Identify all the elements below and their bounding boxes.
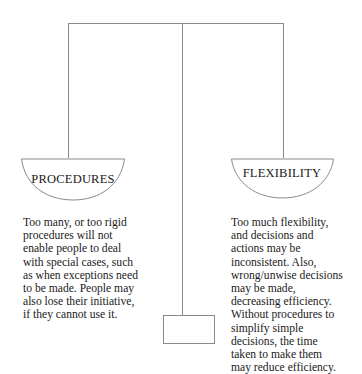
flexibility-label: FLEXIBILITY — [231, 166, 333, 181]
description-line: decreasing efficiency. — [231, 295, 343, 308]
description-line: decisions, the time — [231, 335, 343, 348]
description-line: taken to make them — [231, 348, 343, 361]
description-line: also lose their initiative, — [23, 295, 138, 308]
description-line: and decisions and — [231, 229, 343, 242]
description-line: with special cases, such — [23, 256, 138, 269]
description-line: may be made, — [231, 282, 343, 295]
description-line: wrong/unwise decisions — [231, 269, 343, 282]
procedures-description: Too many, or too rigid procedures will n… — [23, 216, 138, 322]
flexibility-description: Too much flexibility, and decisions and … — [231, 216, 343, 374]
description-line: procedures will not — [23, 229, 138, 242]
description-line: actions may be — [231, 242, 343, 255]
description-line: if they cannot use it. — [23, 308, 138, 321]
description-line: Too much flexibility, — [231, 216, 343, 229]
description-line: enable people to deal — [23, 242, 138, 255]
description-line: to be made. People may — [23, 282, 138, 295]
description-line: Too many, or too rigid — [23, 216, 138, 229]
description-line: inconsistent. Also, — [231, 256, 343, 269]
description-line: as when exceptions need — [23, 269, 138, 282]
description-line: may reduce efficiency. — [231, 361, 343, 374]
procedures-label: PROCEDURES — [21, 172, 125, 187]
description-line: simplify simple — [231, 322, 343, 335]
scale-base — [164, 316, 215, 344]
description-line: Without procedures to — [231, 308, 343, 321]
